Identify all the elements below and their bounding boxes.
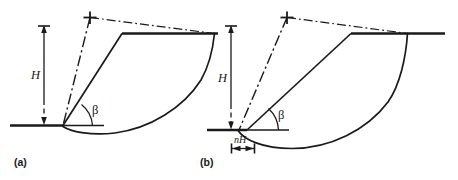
panel-b-nh-arrow-right-icon bbox=[246, 146, 255, 151]
panel-b-nh-arrow-left-icon bbox=[232, 146, 241, 151]
panel-b-center-of-rotation-cross-icon bbox=[281, 12, 294, 25]
panel-a-group: H β (a) bbox=[10, 12, 218, 169]
panel-b-height-arrow-bottom-icon bbox=[228, 122, 234, 130]
panel-b-height-label: H bbox=[217, 71, 228, 85]
panel-b-slip-surface-arc bbox=[238, 34, 408, 149]
panel-b-angle-arc bbox=[269, 109, 279, 131]
panel-a-center-of-rotation-cross-icon bbox=[84, 12, 97, 25]
slope-stability-figure: H β (a) bbox=[0, 0, 458, 180]
panel-a-caption: (a) bbox=[14, 156, 27, 168]
panel-a-height-label: H bbox=[30, 68, 41, 82]
panel-a-slip-surface-arc bbox=[63, 34, 215, 134]
panel-b-angle-label: β bbox=[278, 108, 284, 122]
panel-b-group: nH H β (b) bbox=[200, 12, 445, 169]
panel-b-caption: (b) bbox=[200, 156, 213, 168]
panel-a-height-arrow-bottom-icon bbox=[41, 117, 47, 125]
panel-a-angle-label: β bbox=[92, 103, 98, 117]
panel-b-radius-to-exit bbox=[287, 18, 408, 34]
panel-b-base-offset-label: nH bbox=[234, 134, 247, 145]
panel-a-radius-to-exit bbox=[90, 18, 215, 34]
figure-root: H β (a) bbox=[0, 0, 458, 180]
panel-a-angle-arc bbox=[82, 105, 93, 126]
panel-b-slope-face bbox=[247, 34, 351, 131]
panel-b-base-offset-dimension bbox=[232, 144, 255, 154]
